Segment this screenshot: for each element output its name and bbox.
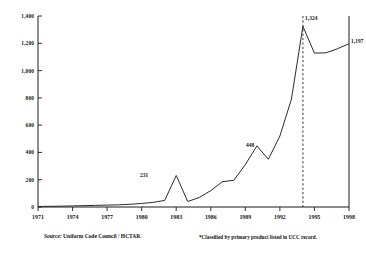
- y-tick-label: 400: [8, 149, 34, 155]
- x-tick-label: 1998: [343, 214, 355, 220]
- data-label-448: 448: [246, 142, 254, 148]
- y-tick-label: 1,400: [8, 13, 34, 19]
- data-series-line: [38, 26, 349, 206]
- y-tick-marks: [38, 16, 42, 207]
- data-label-1197: 1,197: [351, 38, 364, 44]
- x-tick-label: 1977: [101, 214, 113, 220]
- data-label-231: 231: [140, 172, 148, 178]
- footnote-classification: *Classified by primary product listed in…: [199, 234, 317, 240]
- x-tick-marks: [38, 207, 349, 211]
- y-tick-label: 0: [8, 204, 34, 210]
- source-text: Uniform Code Council / HCTAR.: [63, 233, 142, 239]
- x-tick-label: 1986: [205, 214, 217, 220]
- y-tick-label: 1,000: [8, 68, 34, 74]
- chart-figure: Annual Registrations 0 200 400 600 800 1…: [0, 0, 366, 254]
- x-tick-label: 1992: [274, 214, 286, 220]
- x-tick-label: 1983: [170, 214, 182, 220]
- data-label-1324: 1,324: [305, 15, 318, 21]
- x-tick-label: 1995: [309, 214, 321, 220]
- y-tick-label: 600: [8, 122, 34, 128]
- y-tick-label: 1,200: [8, 40, 34, 46]
- x-tick-label: 1974: [67, 214, 79, 220]
- x-tick-label: 1989: [239, 214, 251, 220]
- x-tick-label: 1980: [136, 214, 148, 220]
- y-tick-label: 200: [8, 177, 34, 183]
- source-label: Source:: [44, 233, 62, 239]
- x-tick-label: 1971: [32, 214, 44, 220]
- source-note: Source: Uniform Code Council / HCTAR.: [44, 233, 142, 239]
- y-tick-label: 800: [8, 95, 34, 101]
